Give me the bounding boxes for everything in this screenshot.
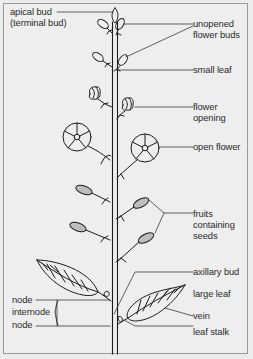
flower-opening-icon xyxy=(89,87,133,119)
leader-lines xyxy=(36,12,193,326)
label-unopened: unopened xyxy=(193,18,234,29)
label-containing: containing xyxy=(193,219,235,230)
unopened-bud-icon xyxy=(96,17,126,35)
label-flower-buds: flower buds xyxy=(193,29,240,40)
label-axillary-bud: axillary bud xyxy=(193,266,239,277)
label-small-leaf: small leaf xyxy=(193,64,232,75)
label-fruits: fruits xyxy=(193,208,213,219)
large-leaf-left-icon xyxy=(37,260,111,301)
open-flower-icon xyxy=(63,123,159,179)
label-opening: opening xyxy=(193,112,226,123)
large-leaf-right-icon xyxy=(118,285,185,324)
label-flower: flower xyxy=(193,101,217,112)
label-leaf-stalk: leaf stalk xyxy=(193,326,229,337)
label-node-upper: node xyxy=(12,294,32,305)
label-node-lower: node xyxy=(12,319,32,330)
label-large-leaf: large leaf xyxy=(193,288,231,299)
label-open-flower: open flower xyxy=(193,141,240,152)
label-vein: vein xyxy=(193,310,210,321)
label-apical-bud: apical bud xyxy=(10,6,52,17)
internode-bracket xyxy=(55,301,58,325)
label-seeds: seeds xyxy=(193,230,218,241)
label-terminal-bud: (terminal bud) xyxy=(10,17,66,28)
stem xyxy=(113,22,118,354)
apical-bud-icon xyxy=(112,8,118,23)
label-internode: internode xyxy=(12,306,50,317)
bud-pair-icon xyxy=(91,51,129,71)
